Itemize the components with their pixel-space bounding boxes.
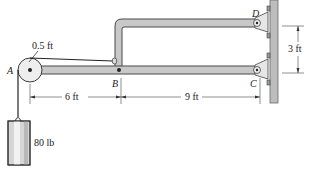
member-ac — [26, 66, 262, 74]
label-weight: 80 lb — [34, 138, 54, 148]
wall — [270, 0, 278, 103]
cable-top — [30, 58, 113, 61]
label-pulley-radius: 0.5 ft — [32, 41, 53, 51]
label-dim-cd: 3 ft — [288, 44, 302, 54]
label-point-c: C — [250, 79, 257, 89]
label-point-d: D — [252, 9, 259, 19]
cable-attach — [112, 58, 117, 64]
member-bd — [115, 19, 258, 70]
label-point-a: A — [7, 66, 13, 76]
label-dim-bc: 9 ft — [185, 92, 199, 102]
pin-b — [117, 68, 121, 72]
label-dim-ab: 6 ft — [65, 92, 79, 102]
pin-a — [28, 68, 32, 72]
weight-block — [8, 118, 30, 166]
label-point-b: B — [112, 79, 118, 89]
